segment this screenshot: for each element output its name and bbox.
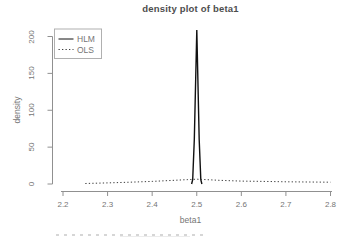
y-tick-label: 0 <box>27 172 37 196</box>
x-axis-title: beta1 <box>33 215 348 225</box>
series-hlm-line <box>192 30 202 184</box>
legend-label-ols: OLS <box>77 45 94 55</box>
clipped-caption-remnant <box>56 234 206 238</box>
x-tick-label: 2.3 <box>96 200 120 210</box>
y-axis-title: density <box>12 80 22 140</box>
y-tick-label: 150 <box>27 61 37 85</box>
y-tick-label: 50 <box>27 135 37 159</box>
x-tick-label: 2.7 <box>274 200 298 210</box>
x-tick-label: 2.8 <box>319 200 343 210</box>
r-plot-window: density plot of beta1 HLMOLS beta1 densi… <box>0 0 348 238</box>
series-ols-line <box>85 179 330 183</box>
legend-label-hlm: HLM <box>77 34 95 44</box>
y-tick-label: 200 <box>27 25 37 49</box>
x-tick-label: 2.5 <box>185 200 209 210</box>
y-tick-label: 100 <box>27 98 37 122</box>
x-tick-label: 2.6 <box>229 200 253 210</box>
x-tick-label: 2.2 <box>51 200 75 210</box>
legend: HLMOLS <box>55 29 102 59</box>
x-tick-label: 2.4 <box>140 200 164 210</box>
